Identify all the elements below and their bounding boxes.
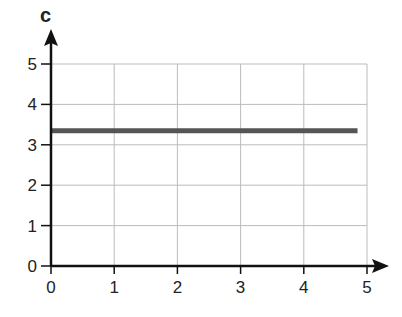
x-tick-label: 4 bbox=[299, 278, 308, 297]
x-tick-label: 0 bbox=[46, 278, 55, 297]
ticks bbox=[41, 64, 367, 274]
y-tick-label: 5 bbox=[28, 55, 37, 74]
x-tick-label: 3 bbox=[236, 278, 245, 297]
y-tick-label: 3 bbox=[28, 136, 37, 155]
y-tick-label: 4 bbox=[28, 95, 37, 114]
y-tick-label: 0 bbox=[28, 257, 37, 276]
chart-canvas: 012345 012345 c bbox=[0, 0, 402, 317]
y-tick-label: 2 bbox=[28, 176, 37, 195]
y-tick-label: 1 bbox=[28, 217, 37, 236]
x-tick-label: 2 bbox=[173, 278, 182, 297]
x-tick-labels: 012345 bbox=[46, 278, 371, 297]
y-tick-labels: 012345 bbox=[28, 55, 37, 276]
y-axis-title: c bbox=[40, 4, 51, 26]
grid bbox=[51, 64, 367, 266]
x-tick-label: 1 bbox=[109, 278, 118, 297]
axes bbox=[44, 29, 389, 273]
x-tick-label: 5 bbox=[362, 278, 371, 297]
